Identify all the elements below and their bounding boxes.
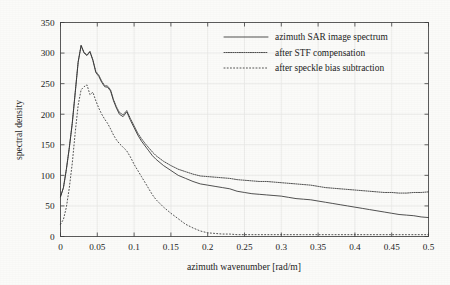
figure-canvas: 00.050.10.150.20.250.30.350.40.450.5 050… [0, 0, 450, 285]
x-tick-label: 0.4 [349, 242, 361, 252]
x-tick-label: 0.15 [163, 242, 179, 252]
y-tick-label: 250 [41, 79, 55, 89]
x-axis-title: azimuth wavenumber [rad/m] [187, 261, 301, 272]
y-tick-label: 100 [41, 171, 55, 181]
legend-label-1: after STF compensation [275, 48, 365, 58]
y-tick-label: 350 [41, 18, 55, 28]
gridlines [61, 23, 429, 237]
x-tick-label: 0.35 [310, 242, 326, 252]
legend-label-2: after speckle bias subtraction [275, 63, 384, 73]
x-tick-label: 0.3 [276, 242, 288, 252]
y-tick-label: 50 [45, 201, 55, 211]
x-tick-label: 0.25 [236, 242, 252, 252]
legend: azimuth SAR image spectrumafter STF comp… [224, 32, 388, 73]
x-tick-label: 0.45 [384, 242, 400, 252]
y-tick-label: 200 [41, 110, 55, 120]
y-tick-label: 300 [41, 48, 55, 58]
x-tick-label: 0.05 [89, 242, 105, 252]
y-axis-ticks: 050100150200250300350 [41, 18, 429, 242]
y-tick-label: 0 [50, 232, 55, 242]
legend-label-0: azimuth SAR image spectrum [275, 32, 388, 42]
x-tick-label: 0.1 [128, 242, 140, 252]
y-tick-label: 150 [41, 140, 55, 150]
y-axis-title: spectral density [13, 100, 24, 160]
x-tick-label: 0.5 [423, 242, 435, 252]
spectral-density-chart: 00.050.10.150.20.250.30.350.40.450.5 050… [0, 0, 450, 285]
x-tick-label: 0 [58, 242, 63, 252]
x-tick-label: 0.2 [202, 242, 214, 252]
